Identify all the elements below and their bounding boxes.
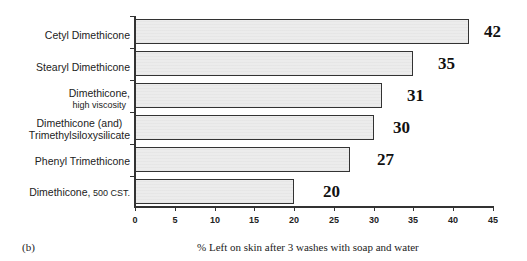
bar-phenyl-trimethicone	[135, 147, 350, 172]
value-label: 31	[407, 86, 424, 106]
category-label-line: Dimethicone (and)	[29, 117, 130, 129]
x-tick-label: 5	[165, 215, 185, 225]
x-tick-label: 45	[483, 215, 503, 225]
x-tick-label: 15	[244, 215, 264, 225]
x-tick-label: 30	[364, 215, 384, 225]
y-tick	[130, 48, 135, 49]
bar-stearyl-dimethicone	[135, 51, 413, 76]
category-label: Dimethicone, high viscosity	[69, 87, 130, 111]
category-label-main: Dimethicone,	[29, 186, 90, 198]
x-tick-label: 25	[324, 215, 344, 225]
x-tick	[453, 207, 454, 211]
value-label: 35	[438, 54, 455, 74]
y-tick	[130, 144, 135, 145]
category-label: Phenyl Trimethicone	[35, 155, 130, 167]
x-tick	[374, 207, 375, 211]
category-label-line: high viscosity	[69, 99, 130, 111]
value-label: 30	[393, 118, 410, 138]
x-tick	[215, 207, 216, 211]
x-axis	[134, 206, 494, 208]
category-label: Cetyl Dimethicone	[45, 29, 130, 41]
x-axis-title: % Left on skin after 3 washes with soap …	[197, 241, 419, 253]
x-tick	[334, 207, 335, 211]
category-label-unit: 500 CST.	[90, 188, 130, 198]
category-label-line: Trimethylsiloxysilicate	[29, 129, 130, 141]
bar-dimethicone-high-viscosity	[135, 83, 382, 108]
x-tick-label: 35	[403, 215, 423, 225]
y-tick	[130, 16, 135, 17]
x-tick	[135, 207, 136, 211]
y-tick	[130, 176, 135, 177]
bar-dimethicone-trimethylsiloxysilicate	[135, 115, 374, 140]
x-tick-label: 40	[443, 215, 463, 225]
y-tick	[130, 112, 135, 113]
y-tick	[130, 80, 135, 81]
category-label: Stearyl Dimethicone	[36, 61, 130, 73]
bar-cetyl-dimethicone	[135, 19, 469, 44]
value-label: 27	[377, 150, 394, 170]
x-tick	[493, 207, 494, 211]
x-tick-label: 20	[284, 215, 304, 225]
bar-dimethicone-500cst	[135, 179, 294, 204]
value-label: 42	[484, 22, 501, 42]
category-label-line: Dimethicone,	[69, 87, 130, 99]
x-tick-label: 0	[125, 215, 145, 225]
bar-chart: Cetyl Dimethicone Stearyl Dimethicone Di…	[0, 0, 527, 261]
x-tick	[413, 207, 414, 211]
x-tick	[294, 207, 295, 211]
x-tick	[254, 207, 255, 211]
category-label: Dimethicone (and) Trimethylsiloxysilicat…	[29, 117, 130, 141]
value-label: 20	[323, 182, 340, 202]
x-tick	[175, 207, 176, 211]
panel-label: (b)	[22, 241, 35, 253]
category-label: Dimethicone, 500 CST.	[29, 186, 130, 199]
x-tick-label: 10	[205, 215, 225, 225]
